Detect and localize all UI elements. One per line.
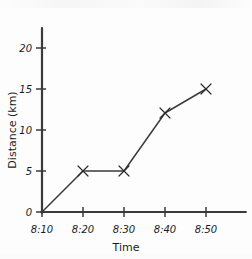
x-tick-label-820: 8:20 [72,224,94,235]
data-point-840 [160,108,170,118]
y-axis-title: Distance (km) [6,91,19,168]
x-tick-label-840: 8:40 [154,224,176,235]
y-tick-label-10: 10 [19,125,32,136]
data-point-850 [201,84,211,94]
distance-time-chart: 20 15 10 5 0 8:10 8:20 8:30 8:40 8:50 [0,0,252,259]
chart-plot-area: 20 15 10 5 0 8:10 8:20 8:30 8:40 8:50 [0,0,252,259]
x-axis-title: Time [112,241,140,254]
y-tick-label-5: 5 [26,166,32,177]
x-tick-label-810: 8:10 [31,224,53,235]
x-tick-label-850: 8:50 [195,224,217,235]
y-tick-label-20: 20 [19,43,32,54]
x-tick-label-830: 8:30 [113,224,135,235]
y-tick-label-15: 15 [19,84,32,95]
data-line-distance [42,89,206,212]
y-tick-label-0: 0 [26,207,32,218]
